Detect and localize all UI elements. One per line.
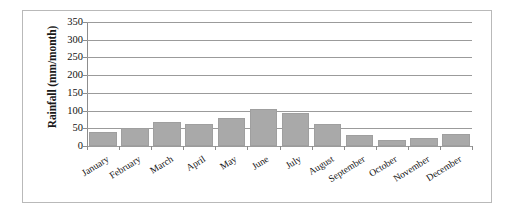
- x-axis-tick-mark: [312, 146, 313, 150]
- bar: [89, 132, 117, 146]
- y-axis-tick-label: 0: [49, 141, 83, 151]
- y-axis-tick-mark: [83, 75, 87, 76]
- x-axis-tick-mark: [119, 146, 120, 150]
- bar: [185, 124, 213, 146]
- bar: [410, 138, 438, 146]
- y-axis-tick-mark: [83, 22, 87, 23]
- x-axis-tick-mark: [280, 146, 281, 150]
- bar: [121, 128, 149, 146]
- y-axis-tick-label: 150: [49, 88, 83, 98]
- y-axis-tick-mark: [83, 57, 87, 58]
- bar: [378, 140, 406, 146]
- bar: [346, 135, 374, 146]
- x-axis-tick-mark: [215, 146, 216, 150]
- y-axis-tick-mark: [83, 111, 87, 112]
- x-axis-tick-mark: [183, 146, 184, 150]
- plot-area: [87, 22, 472, 146]
- gridline: [87, 93, 472, 94]
- y-axis-tick-mark: [83, 93, 87, 94]
- gridline: [87, 111, 472, 112]
- x-axis-tick-mark: [408, 146, 409, 150]
- bar: [218, 118, 246, 146]
- y-axis-tick-label: 50: [49, 123, 83, 133]
- rainfall-bar-chart-figure: Rainfall (mm/month) 05010015020025030035…: [0, 0, 513, 216]
- y-axis-tick-label: 100: [49, 106, 83, 116]
- x-axis-tick-mark: [344, 146, 345, 150]
- gridline: [87, 75, 472, 76]
- y-axis-tick-mark: [83, 40, 87, 41]
- y-axis-tick-label: 300: [49, 35, 83, 45]
- bar: [314, 124, 342, 146]
- bar: [442, 134, 470, 146]
- x-axis-tick-mark: [440, 146, 441, 150]
- gridline: [87, 22, 472, 23]
- gridline: [87, 57, 472, 58]
- x-axis-tick-mark: [472, 146, 473, 150]
- x-axis-tick-mark: [247, 146, 248, 150]
- y-axis-tick-label: 350: [49, 17, 83, 27]
- y-axis-tick-label: 200: [49, 70, 83, 80]
- x-axis-tick-mark: [376, 146, 377, 150]
- y-axis-tick-mark: [83, 128, 87, 129]
- y-axis-tick-labels: 050100150200250300350: [47, 22, 83, 146]
- bar: [250, 109, 278, 146]
- gridline: [87, 40, 472, 41]
- x-axis-tick-mark: [87, 146, 88, 150]
- bar: [153, 122, 181, 146]
- bar: [282, 113, 310, 146]
- y-axis-tick-label: 250: [49, 52, 83, 62]
- x-axis-tick-mark: [151, 146, 152, 150]
